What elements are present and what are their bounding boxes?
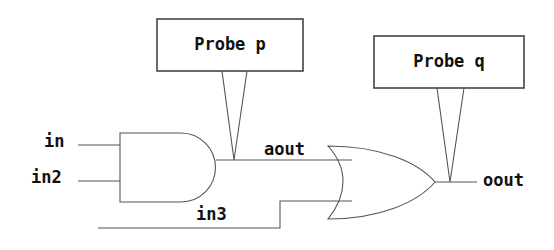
probe-p-tail: [222, 71, 247, 160]
signal-label-in: in: [44, 133, 64, 150]
probe-q-label: Probe q: [374, 53, 524, 70]
signal-label-aout: aout: [264, 141, 305, 158]
signal-label-oout: oout: [483, 172, 524, 189]
probe-p-label: Probe p: [157, 36, 303, 53]
and-gate-body: [120, 133, 216, 202]
or-gate-body: [328, 146, 435, 219]
signal-label-in3: in3: [196, 206, 227, 223]
probe-q-tail: [437, 88, 464, 182]
signal-label-in2: in2: [31, 169, 62, 186]
circuit-diagram-canvas: in in2 aout in3 oout Probe p Probe q: [0, 0, 554, 250]
